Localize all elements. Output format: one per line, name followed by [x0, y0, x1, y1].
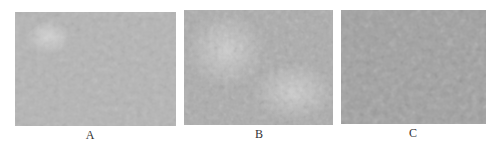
- panel-label-a: A: [80, 129, 100, 141]
- panel-label-b: B: [249, 128, 269, 140]
- micrograph-image-b: [184, 10, 333, 125]
- micrograph-panel-a: [15, 12, 176, 126]
- micrograph-panel-c: [341, 10, 486, 124]
- panel-label-c: C: [403, 127, 423, 139]
- micrograph-image-c: [341, 10, 486, 124]
- micrograph-panel-b: [184, 10, 333, 125]
- micrograph-image-a: [15, 12, 176, 126]
